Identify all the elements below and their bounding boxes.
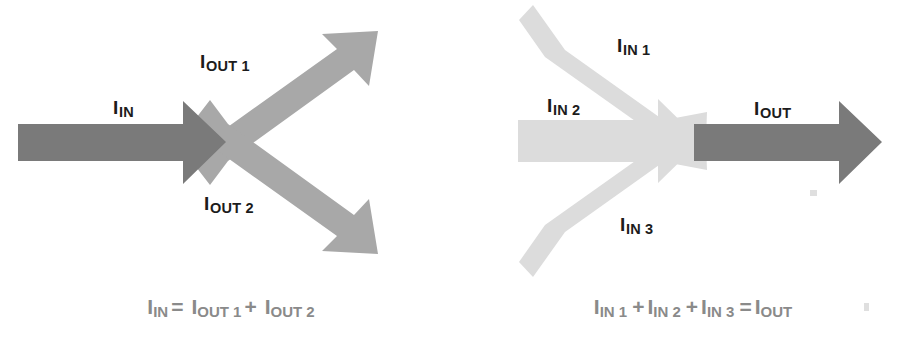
eq2-term-1-sub: IN 2 bbox=[653, 303, 681, 320]
eq2-operator-plus-2: + bbox=[681, 295, 701, 318]
label-i-in-2: IIN 2 bbox=[547, 96, 580, 115]
paper-speck bbox=[810, 190, 817, 196]
eq-operator-plus: + bbox=[241, 295, 259, 318]
arrow-i-out-2 bbox=[193, 100, 378, 254]
eq2-term-0-sub: IN 1 bbox=[600, 303, 628, 320]
eq-term-1-base: I bbox=[186, 295, 197, 318]
eq2-operator-equals: = bbox=[734, 295, 754, 318]
current-combining-panel: IIN 1 IIN 2 IIN 3 IOUT IIN 1+IIN 2+IIN 3… bbox=[462, 0, 924, 361]
eq2-operator-plus-1: + bbox=[627, 295, 647, 318]
equation-combining: IIN 1+IIN 2+IIN 3=IOUT bbox=[462, 296, 924, 317]
label-i-in: IIN bbox=[113, 98, 133, 117]
label-i-in-1: IIN 1 bbox=[617, 36, 650, 55]
eq-term-1-sub: OUT 1 bbox=[197, 303, 241, 320]
label-i-out: IOUT bbox=[754, 99, 791, 118]
eq2-term-2-sub: IN 3 bbox=[707, 303, 735, 320]
equation-splitting: IIN=IOUT 1+IOUT 2 bbox=[0, 296, 462, 317]
combining-arrow-graphic bbox=[462, 0, 924, 285]
label-i-out-1: IOUT 1 bbox=[200, 52, 249, 71]
eq2-term-3-base: I bbox=[755, 295, 761, 318]
eq2-term-2-base: I bbox=[701, 295, 707, 318]
eq-term-0-sub: IN bbox=[153, 303, 168, 320]
eq2-term-3-sub: OUT bbox=[761, 303, 793, 320]
label-i-in-3: IIN 3 bbox=[620, 215, 653, 234]
splitting-arrow-graphic bbox=[0, 0, 462, 285]
current-splitting-panel: IIN IOUT 1 IOUT 2 IIN=IOUT 1+IOUT 2 bbox=[0, 0, 462, 361]
label-i-out-2: IOUT 2 bbox=[204, 194, 253, 213]
eq-term-2-base: I bbox=[260, 295, 271, 318]
eq2-term-0-base: I bbox=[594, 295, 600, 318]
eq-operator-equals: = bbox=[168, 295, 186, 318]
eq-term-2-sub: OUT 2 bbox=[271, 303, 315, 320]
figure-canvas: IIN IOUT 1 IOUT 2 IIN=IOUT 1+IOUT 2 IIN … bbox=[0, 0, 924, 361]
arrow-i-in-2 bbox=[518, 99, 701, 183]
